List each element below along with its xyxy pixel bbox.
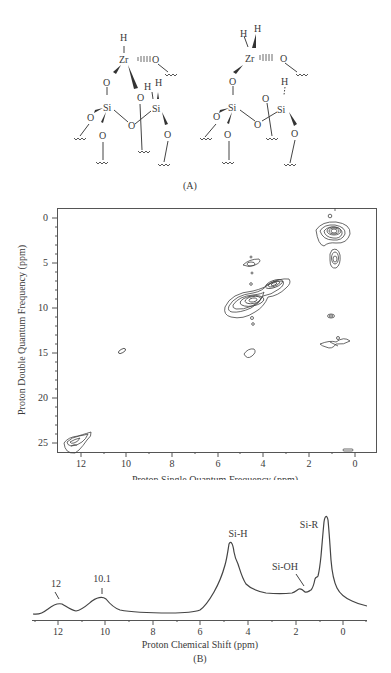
annotation-si-r: Si-R (300, 519, 319, 530)
x-tick-labels-1d: 12 10 8 6 4 2 0 (53, 626, 346, 637)
spectrum-trace (33, 516, 367, 614)
annotation-si-h: Si-H (229, 528, 248, 539)
svg-text:2: 2 (294, 626, 299, 637)
svg-text:12: 12 (53, 626, 63, 637)
annotation-si-oh: Si-OH (272, 561, 298, 572)
peak-annotations: 12 10.1 Si-H Si-OH Si-R (51, 519, 318, 589)
chart-1d-spectrum: 12 10.1 Si-H Si-OH Si-R 12 10 8 6 4 2 0 … (0, 0, 391, 673)
svg-text:0: 0 (341, 626, 346, 637)
svg-text:4: 4 (246, 626, 251, 637)
svg-text:10: 10 (100, 626, 110, 637)
svg-text:8: 8 (151, 626, 156, 637)
annotation-12: 12 (51, 578, 61, 589)
annotation-10-1: 10.1 (93, 573, 111, 584)
x-axis-label-1d: Proton Chemical Shift (ppm) (142, 639, 258, 651)
panel-b-label: (B) (193, 653, 206, 665)
svg-text:6: 6 (198, 626, 203, 637)
